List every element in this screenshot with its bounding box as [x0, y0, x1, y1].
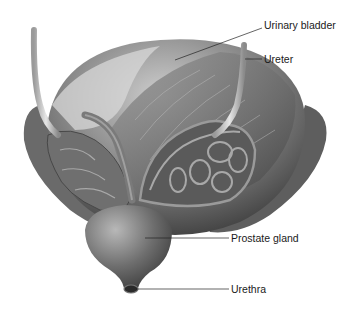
label-urinary-bladder: Urinary bladder — [264, 20, 336, 31]
label-prostate-gland: Prostate gland — [231, 233, 299, 244]
anatomy-illustration — [0, 0, 357, 313]
urethra-opening — [124, 285, 138, 293]
prostate-gland-shape — [85, 205, 172, 288]
label-ureter: Ureter — [264, 54, 293, 65]
label-urethra: Urethra — [231, 284, 266, 295]
